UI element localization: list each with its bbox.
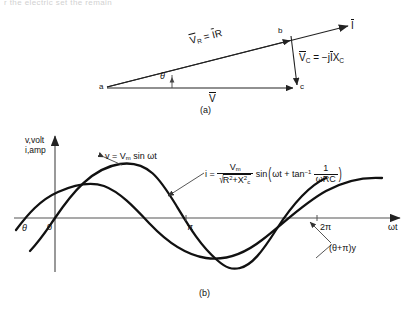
i-arg-exp: −1 bbox=[304, 169, 311, 175]
v-rhs: sin ωt bbox=[133, 151, 157, 161]
figure-b-canvas bbox=[0, 0, 415, 312]
figure-b-waveform-plot: v,volt i,amp v = Vm sin ωt i = Vm √R2+X2… bbox=[0, 0, 415, 312]
x-axis-label: ωt bbox=[388, 222, 398, 232]
y-axis-label: v,volt i,amp bbox=[25, 135, 46, 155]
den-r-exp: 2 bbox=[229, 175, 232, 181]
i-frac-numerator: Vm bbox=[217, 163, 253, 173]
i-frac-denominator: √R2+X2c bbox=[217, 173, 253, 185]
x-tick-label-theta: θ bbox=[22, 223, 27, 233]
v-amplitude-sub: m bbox=[126, 155, 131, 161]
i-sin: sin bbox=[256, 169, 268, 179]
figure-b-caption: (b) bbox=[199, 288, 210, 298]
arg-frac-num: 1 bbox=[314, 164, 338, 173]
y-axis-label-volt: v,volt bbox=[25, 135, 44, 145]
x-tick-label-zero: 0 bbox=[47, 222, 52, 232]
v-lhs: v bbox=[105, 151, 110, 161]
current-equation-label: i = Vm √R2+X2c sin(ωt + tan−1 1 ωRC ) bbox=[205, 163, 343, 185]
arg-frac-den: ωRC bbox=[314, 174, 338, 184]
close-paren: ) bbox=[339, 164, 342, 183]
radicand: R2+X2c bbox=[223, 174, 251, 185]
theta-plus-pi-annotation: (θ+π)y bbox=[329, 243, 356, 253]
voltage-equation-label: v = Vm sin ωt bbox=[105, 151, 157, 161]
i-arg-start: ωt + tan bbox=[272, 169, 304, 179]
i-lhs: i bbox=[205, 169, 207, 179]
i-arg-fraction: 1 ωRC bbox=[314, 164, 338, 184]
i-eq-sign: = bbox=[210, 169, 215, 179]
leader-current bbox=[168, 173, 204, 196]
x-tick-label-pi: π bbox=[187, 222, 193, 232]
v-eq-sign: = bbox=[112, 151, 117, 161]
radical-icon: √ bbox=[219, 174, 223, 187]
open-paren: ( bbox=[268, 164, 271, 183]
i-amplitude-fraction: Vm √R2+X2c bbox=[217, 163, 253, 185]
x-tick-label-2pi: 2π bbox=[320, 222, 331, 232]
y-axis-label-amp: i,amp bbox=[25, 145, 46, 155]
i-num-sub: m bbox=[236, 166, 241, 172]
den-x-sub: c bbox=[247, 179, 250, 185]
